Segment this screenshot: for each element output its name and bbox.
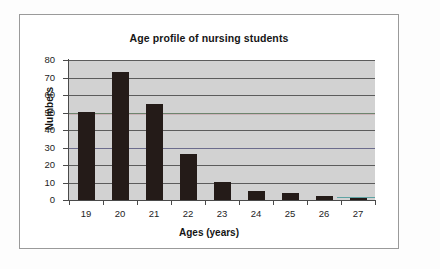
y-axis-tick [63,165,68,166]
bar [180,154,197,200]
y-axis-tick [63,78,68,79]
y-axis-tick [63,113,68,114]
x-axis-tick-label: 23 [205,208,239,219]
y-axis-tick-label: 30 [29,142,55,153]
y-axis-tick-label: 60 [29,89,55,100]
y-axis-tick [63,95,68,96]
x-axis-tick-label: 20 [103,208,137,219]
x-axis-title: Ages (years) [20,227,398,238]
x-axis-tick [205,201,206,205]
x-axis-tick-label: 19 [69,208,103,219]
bar [282,193,299,200]
x-axis-tick [341,201,342,205]
x-axis-tick [239,201,240,205]
bar [78,112,95,200]
x-axis-tick [69,201,70,205]
y-axis-tick-label: 80 [29,54,55,65]
x-axis-tick [307,201,308,205]
plot-area [69,60,375,200]
chart-title: Age profile of nursing students [20,32,398,44]
y-axis-tick [63,130,68,131]
x-axis-tick-label: 24 [239,208,273,219]
y-axis-tick-label: 50 [29,107,55,118]
x-axis-tick [273,201,274,205]
x-axis-tick-label: 27 [341,208,375,219]
y-axis-tick-label: 40 [29,124,55,135]
residual-series-line [337,197,375,198]
y-axis-tick-label: 0 [29,194,55,205]
x-axis-tick-label: 21 [137,208,171,219]
x-axis-tick [375,201,376,205]
y-axis-tick [63,60,68,61]
bar [112,72,129,200]
y-axis-tick [63,183,68,184]
bar [214,182,231,200]
x-axis-tick-label: 22 [171,208,205,219]
x-axis-tick [103,201,104,205]
x-axis-line [68,200,376,201]
y-axis-tick [63,148,68,149]
y-axis-tick [63,200,68,201]
x-axis-tick-label: 25 [273,208,307,219]
bar [146,104,163,200]
x-axis-tick-label: 26 [307,208,341,219]
bar [248,191,265,200]
y-axis-line [68,59,69,201]
x-axis-tick [137,201,138,205]
x-axis-tick [171,201,172,205]
y-axis-tick-label: 70 [29,72,55,83]
gridline [69,60,375,61]
y-axis-tick-label: 10 [29,177,55,188]
y-axis-tick-label: 20 [29,159,55,170]
chart-frame: Age profile of nursing students Numbers … [19,14,399,249]
